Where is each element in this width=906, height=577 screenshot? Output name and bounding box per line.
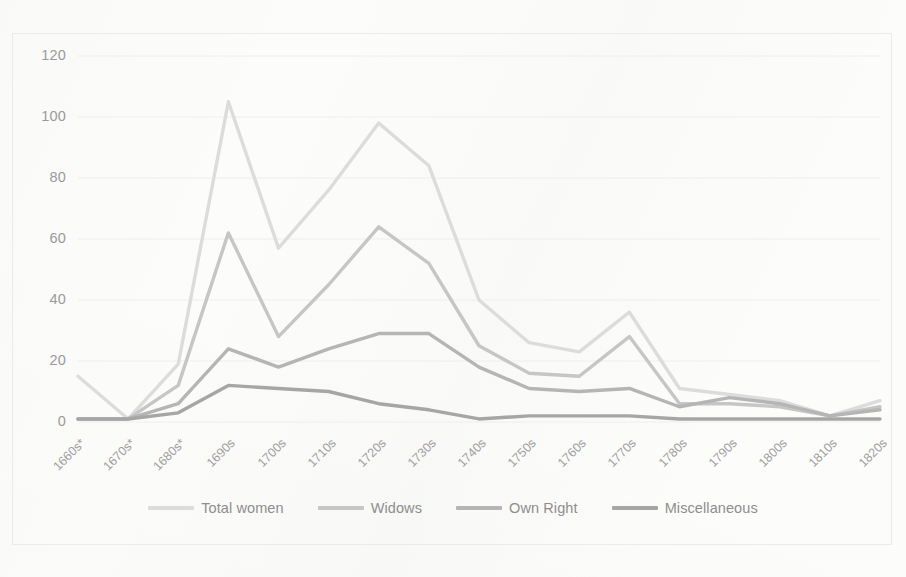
legend-line-swatch-icon: [456, 506, 502, 510]
legend-item-label: Total women: [201, 500, 284, 516]
legend-item[interactable]: Own Right: [456, 500, 578, 516]
legend-item[interactable]: Miscellaneous: [612, 500, 758, 516]
series-group: [78, 102, 880, 419]
legend-item-label: Widows: [371, 500, 422, 516]
chart-container: 020406080100120 1660s*1670s*1680s*1690s1…: [0, 0, 906, 577]
legend-line-swatch-icon: [318, 506, 364, 510]
legend-item-label: Own Right: [509, 500, 578, 516]
legend-item[interactable]: Total women: [148, 500, 284, 516]
line-chart-svg: [0, 0, 906, 577]
series-line: [78, 102, 880, 419]
legend-item-label: Miscellaneous: [665, 500, 758, 516]
legend-line-swatch-icon: [148, 506, 194, 510]
chart-legend: Total womenWidowsOwn RightMiscellaneous: [0, 500, 906, 516]
legend-item[interactable]: Widows: [318, 500, 422, 516]
legend-line-swatch-icon: [612, 506, 658, 510]
